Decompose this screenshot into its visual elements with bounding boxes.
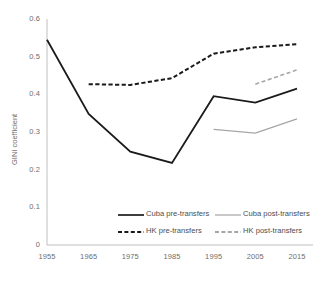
chart-plot-area — [0, 0, 328, 281]
y-axis-tick-0.5: 0.5 — [14, 52, 40, 61]
legend-swatch-cuba-post-transfers — [215, 211, 241, 219]
x-axis-tick-1985: 1985 — [155, 252, 189, 261]
y-axis-tick-0: 0 — [14, 240, 40, 249]
legend-label-hk-post-transfers: HK post-transfers — [243, 226, 302, 235]
y-axis-tick-0.4: 0.4 — [14, 89, 40, 98]
series-line-cuba-post-transfers — [214, 119, 297, 133]
y-axis-tick-0.2: 0.2 — [14, 165, 40, 174]
y-axis-tick-0.6: 0.6 — [14, 14, 40, 23]
legend-swatch-hk-pre-transfers — [118, 228, 144, 236]
series-line-cuba-pre-transfers — [47, 40, 297, 163]
legend-label-hk-pre-transfers: HK pre-transfers — [146, 226, 202, 235]
legend-swatch-hk-post-transfers — [215, 228, 241, 236]
legend-swatch-cuba-pre-transfers — [118, 211, 144, 219]
gini-coefficient-line-chart: 00.10.20.30.40.50.6 19551965197519851995… — [0, 0, 328, 281]
y-axis-tick-0.1: 0.1 — [14, 202, 40, 211]
series-line-hk-pre-transfers — [89, 44, 297, 85]
series-line-hk-post-transfers — [255, 70, 297, 84]
y-axis-title: GINI coefficient — [10, 114, 19, 165]
x-axis-tick-1955: 1955 — [30, 252, 64, 261]
x-axis-tick-1975: 1975 — [113, 252, 147, 261]
x-axis-tick-2005: 2005 — [238, 252, 272, 261]
legend-label-cuba-pre-transfers: Cuba pre-transfers — [146, 209, 209, 218]
legend-label-cuba-post-transfers: Cuba post-transfers — [243, 209, 310, 218]
x-axis-tick-1995: 1995 — [197, 252, 231, 261]
data-series-group — [47, 40, 297, 163]
x-axis-tick-2015: 2015 — [280, 252, 314, 261]
x-axis-tick-1965: 1965 — [72, 252, 106, 261]
